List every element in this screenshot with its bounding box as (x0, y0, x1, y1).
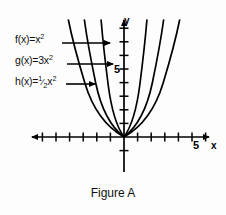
leader-line-group (62, 43, 113, 84)
figure-caption: Figure A (0, 186, 226, 200)
plot-canvas (0, 0, 226, 215)
figure-container: f(x)=x2 g(x)=3x2 h(x)=1⁄2x2 y x 5 5 Figu… (0, 0, 226, 215)
